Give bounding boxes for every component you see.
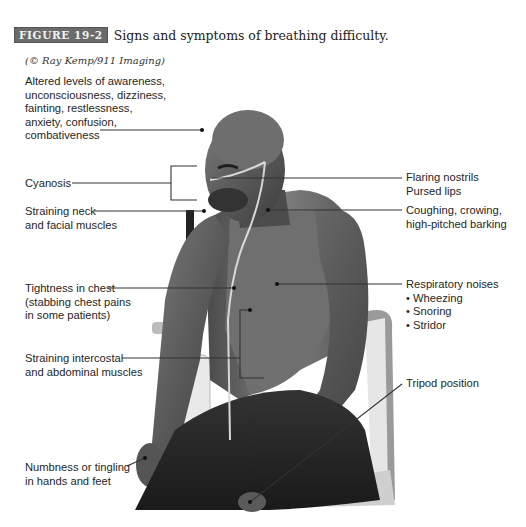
label-line: Tripod position [406, 377, 479, 391]
label-line: unconsciousness, dizziness, [25, 89, 166, 103]
label-numbness: Numbness or tingling in hands and feet [25, 461, 130, 488]
label-line: Numbness or tingling [25, 461, 130, 475]
respiratory-noise-list: Wheezing Snoring Stridor [406, 292, 499, 333]
list-item: Stridor [406, 319, 499, 333]
label-line: Altered levels of awareness, [25, 75, 166, 89]
label-line: and abdominal muscles [25, 366, 143, 380]
label-line: Pursed lips [406, 185, 479, 199]
label-respiratory-noises: Respiratory noises Wheezing Snoring Stri… [406, 278, 499, 332]
label-line: and facial muscles [25, 219, 117, 233]
label-cyanosis: Cyanosis [25, 177, 71, 191]
label-tightness-chest: Tightness in chest (stabbing chest pains… [25, 282, 131, 323]
label-straining-intercostal: Straining intercostal and abdominal musc… [25, 352, 143, 379]
label-altered-awareness: Altered levels of awareness, unconscious… [25, 75, 166, 143]
label-line: Straining neck [25, 205, 117, 219]
label-line: Cyanosis [25, 177, 71, 191]
label-tripod-position: Tripod position [406, 377, 479, 391]
label-line: anxiety, confusion, [25, 116, 166, 130]
list-item: Wheezing [406, 292, 499, 306]
label-line: Tightness in chest [25, 282, 131, 296]
label-flaring-nostrils: Flaring nostrils Pursed lips [406, 171, 479, 198]
label-line: high-pitched barking [406, 218, 507, 232]
label-line: (stabbing chest pains [25, 296, 131, 310]
label-line: Coughing, crowing, [406, 204, 507, 218]
label-line: combativeness [25, 129, 166, 143]
label-line: in hands and feet [25, 475, 130, 489]
label-straining-neck: Straining neck and facial muscles [25, 205, 117, 232]
figure-title: Signs and symptoms of breathing difficul… [114, 28, 389, 43]
label-line: fainting, restlessness, [25, 102, 166, 116]
label-line: Straining intercostal [25, 352, 143, 366]
figure-caption: FIGURE 19-2 Signs and symptoms of breath… [14, 27, 389, 43]
label-line: Flaring nostrils [406, 171, 479, 185]
figure-number-badge: FIGURE 19-2 [14, 27, 108, 43]
label-line: in some patients) [25, 309, 131, 323]
label-heading: Respiratory noises [406, 278, 499, 292]
list-item: Snoring [406, 305, 499, 319]
label-coughing: Coughing, crowing, high-pitched barking [406, 204, 507, 231]
photo-credit: (© Ray Kemp/911 Imaging) [25, 55, 165, 66]
